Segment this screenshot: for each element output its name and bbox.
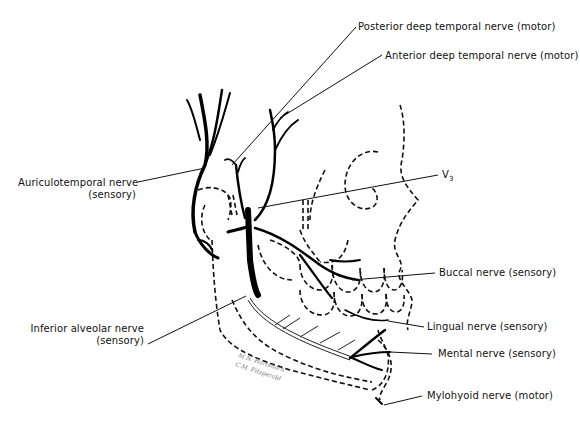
label-mylohyoid-nerve: Mylohyoid nerve (motor) [427, 390, 553, 402]
label-inferior-alveolar-nerve: Inferior alveolar nerve (sensory) [20, 323, 144, 347]
label-auriculotemporal-type: (sensory) [18, 189, 136, 201]
label-anterior-deep-temporal-nerve: Anterior deep temporal nerve (motor) [385, 50, 578, 62]
label-buccal-nerve: Buccal nerve (sensory) [439, 267, 556, 279]
label-v3-subscript: 3 [449, 175, 454, 183]
label-v3-text: V [442, 169, 449, 180]
artist-signature: M.N. Hartshorn C.M. Fitzgerald [234, 351, 285, 383]
leader-lines [138, 27, 438, 405]
nerve-diagram: M.N. Hartshorn C.M. Fitzgerald [0, 0, 580, 424]
label-posterior-deep-temporal-nerve: Posterior deep temporal nerve (motor) [358, 21, 555, 33]
label-lingual-nerve: Lingual nerve (sensory) [427, 321, 547, 333]
label-auriculotemporal-name: Auriculotemporal nerve [18, 177, 136, 189]
face-outline [198, 105, 418, 400]
label-v3: V3 [442, 169, 454, 185]
label-auriculotemporal-nerve: Auriculotemporal nerve (sensory) [18, 177, 136, 201]
inferior-alveolar-canal [248, 298, 355, 360]
label-mental-nerve: Mental nerve (sensory) [438, 348, 556, 360]
label-inferior-alveolar-name: Inferior alveolar nerve [20, 323, 144, 335]
label-inferior-alveolar-type: (sensory) [20, 335, 144, 347]
